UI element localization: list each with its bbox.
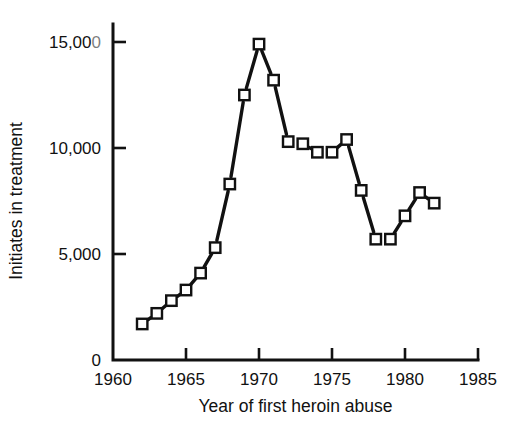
series-segment	[204, 254, 211, 267]
series-segment	[262, 51, 271, 73]
data-point-marker: 1970: 14,900	[254, 39, 264, 49]
series-segment	[191, 279, 196, 285]
y-tick-label-10000: 10,000	[49, 139, 101, 158]
data-point-marker: 1976: 10,400	[341, 134, 351, 144]
data-point-marker: 1982: 7,400	[429, 198, 439, 208]
chart-figure: 05,00010,00015,0001960196519701975198019…	[0, 0, 518, 437]
data-point-marker: 1975: 9,800	[327, 147, 337, 157]
data-point-marker: 1969: 12,500	[239, 90, 249, 100]
x-tick-label-1960: 1960	[94, 370, 132, 389]
data-point-marker: 1979: 5,700	[385, 234, 395, 244]
series-segment	[394, 222, 401, 233]
data-point-marker: 1980: 6,800	[400, 211, 410, 221]
data-point-marker: 1964: 2,800	[166, 295, 176, 305]
series-marker-group: 1962: 1,7001963: 2,2001964: 2,8001965: 3…	[137, 39, 439, 329]
data-point-marker: 1966: 4,100	[195, 268, 205, 278]
scatter-line-plot: 05,00010,00015,0001960196519701975198019…	[0, 0, 518, 437]
y-axis-title: Initiates in treatment	[6, 122, 26, 280]
x-tick-label-1985: 1985	[459, 370, 497, 389]
series-segment	[349, 147, 360, 184]
data-point-marker: 1977: 8,000	[356, 185, 366, 195]
x-tick-label-1980: 1980	[386, 370, 424, 389]
series-segment	[309, 147, 311, 148]
data-point-marker: 1972: 10,300	[283, 136, 293, 146]
data-point-marker: 1967: 5,300	[210, 242, 220, 252]
data-point-marker: 1981: 7,900	[414, 187, 424, 197]
y-tick-label-0: 0	[92, 351, 101, 370]
series-segment	[363, 197, 373, 232]
y-tick-label-15000: 15,000	[49, 33, 101, 52]
series-segment	[231, 102, 243, 176]
data-point-marker: 1973: 10,200	[298, 139, 308, 149]
data-point-marker: 1963: 2,200	[152, 308, 162, 318]
series-segment	[217, 191, 228, 240]
series-segment	[275, 87, 286, 134]
x-axis-title: Year of first heroin abuse	[199, 396, 393, 416]
series-line-group	[148, 51, 428, 320]
data-point-marker: 1968: 8,300	[225, 179, 235, 189]
x-tick-label-1975: 1975	[313, 370, 351, 389]
data-point-marker: 1978: 5,700	[371, 234, 381, 244]
x-tick-label-1970: 1970	[240, 370, 278, 389]
data-point-marker: 1974: 9,800	[312, 147, 322, 157]
series-segment	[246, 51, 257, 88]
data-point-marker: 1962: 1,700	[137, 319, 147, 329]
series-segment	[409, 199, 416, 210]
y-tick-label-5000: 5,000	[58, 245, 101, 264]
data-point-marker: 1965: 3,300	[181, 285, 191, 295]
x-tick-label-1965: 1965	[167, 370, 205, 389]
data-point-marker: 1971: 13,200	[268, 75, 278, 85]
